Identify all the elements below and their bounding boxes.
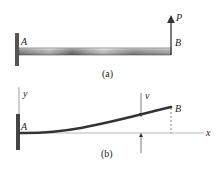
label-deflection-v: v (145, 90, 150, 101)
caption-a: (a) (102, 68, 113, 80)
label-load-p: P (175, 12, 182, 23)
caption-b: (b) (101, 148, 113, 160)
beam-diagram: A B P (a) y x A B v (b) (0, 0, 220, 169)
label-point-b-deflected: B (175, 103, 181, 114)
figure-a: A B P (a) (15, 12, 182, 80)
label-point-b: B (175, 37, 181, 48)
deflected-beam-curve (20, 107, 171, 133)
label-point-a-deflected: A (20, 121, 28, 132)
fixed-support-wall-a (15, 33, 19, 66)
label-x-axis: x (205, 127, 211, 138)
figure-b: y x A B v (b) (16, 87, 211, 160)
label-y-axis: y (22, 88, 28, 99)
label-point-a: A (20, 36, 28, 47)
